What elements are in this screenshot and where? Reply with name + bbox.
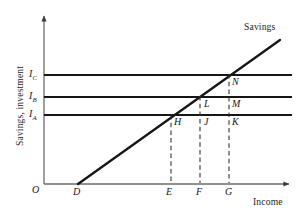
- x-tick-label-g: G: [225, 187, 232, 197]
- x-tick-label-e: E: [166, 187, 172, 197]
- origin-label: O: [32, 185, 39, 195]
- y-tick-label-ic: IC: [29, 69, 37, 82]
- point-label-n: N: [232, 77, 239, 87]
- y-tick-sub-ia: A: [32, 114, 36, 121]
- savings-investment-diagram: Savings, investment Income Savings O IC …: [0, 0, 307, 215]
- savings-curve: [78, 40, 280, 184]
- x-tick-label-d: D: [73, 187, 80, 197]
- point-label-k: K: [232, 117, 239, 127]
- point-label-j: J: [204, 117, 209, 127]
- y-tick-sub-ic: C: [32, 74, 37, 81]
- y-axis-title: Savings, investment: [14, 66, 25, 146]
- x-axis-title: Income: [253, 196, 283, 207]
- point-label-m: M: [232, 99, 240, 109]
- y-tick-sub-ib: B: [32, 96, 36, 103]
- point-label-l: L: [204, 99, 210, 109]
- y-tick-label-ib: IB: [29, 91, 37, 104]
- point-label-h: H: [174, 117, 181, 127]
- x-tick-label-f: F: [196, 187, 202, 197]
- y-tick-label-ia: IA: [29, 109, 37, 122]
- savings-curve-label: Savings: [244, 21, 275, 32]
- diagram-canvas: [0, 0, 307, 215]
